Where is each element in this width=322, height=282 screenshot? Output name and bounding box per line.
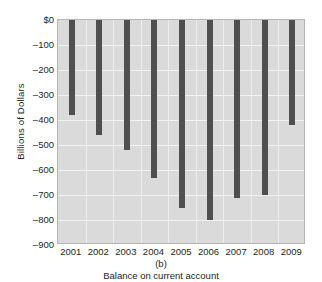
x-axis-tick-label-2007: 2007 xyxy=(226,246,247,257)
x-axis-tick-label-2004: 2004 xyxy=(143,246,164,257)
y-axis-tick-label: –300 xyxy=(0,89,54,100)
y-axis-tick-label: –700 xyxy=(0,189,54,200)
x-axis-tick-label-2006: 2006 xyxy=(198,246,219,257)
x-axis-tick-label-2009: 2009 xyxy=(281,246,302,257)
y-axis-tick-label: $0 xyxy=(0,14,54,25)
x-axis-tick-label-2005: 2005 xyxy=(170,246,191,257)
y-axis-tick-group: $0–100–200–300–400–500–600–700–800–900 xyxy=(0,0,322,282)
y-axis-tick-label: –600 xyxy=(0,164,54,175)
x-axis-tick-label-2002: 2002 xyxy=(88,246,109,257)
y-axis-tick-label: –500 xyxy=(0,139,54,150)
y-axis-tick-label: –400 xyxy=(0,114,54,125)
chart-caption: Balance on current account xyxy=(0,270,322,281)
x-axis-tick-label-2001: 2001 xyxy=(60,246,81,257)
y-axis-tick-label: –900 xyxy=(0,239,54,250)
y-axis-tick-label: –200 xyxy=(0,64,54,75)
panel-letter: (b) xyxy=(0,258,322,269)
x-axis-tick-label-2003: 2003 xyxy=(115,246,136,257)
y-axis-tick-label: –100 xyxy=(0,39,54,50)
figure-panel-b: Billions of Dollars $0–100–200–300–400–5… xyxy=(0,0,322,282)
x-axis-tick-label-2008: 2008 xyxy=(253,246,274,257)
y-axis-tick-label: –800 xyxy=(0,214,54,225)
